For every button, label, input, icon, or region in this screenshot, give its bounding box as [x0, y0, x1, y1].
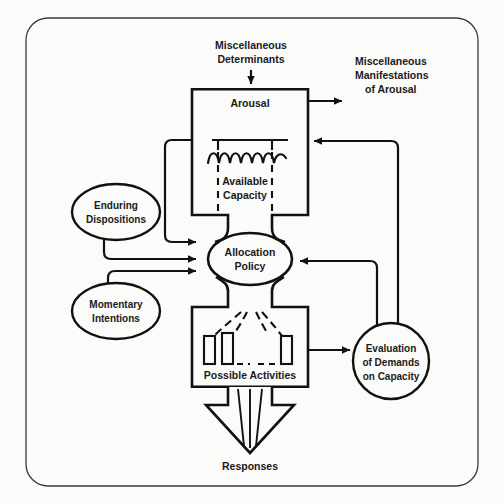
misc-determinants-label-line1: Miscellaneous — [215, 39, 287, 51]
edge-evaluation-to-allocation-policy-feedback — [300, 261, 377, 327]
allocation-policy-node — [208, 233, 292, 285]
evaluation-of-demands-label-line2: of Demands — [362, 357, 420, 368]
available-capacity-wave-icon — [208, 153, 286, 163]
arousal-funnel-outline — [192, 88, 308, 242]
arousal-label: Arousal — [230, 97, 269, 109]
available-capacity-label-line1: Available — [222, 175, 268, 187]
enduring-dispositions-node — [72, 184, 160, 240]
momentary-intentions-label-line2: Intentions — [92, 313, 140, 324]
activity-bar-2 — [222, 333, 233, 364]
diagram-canvas: Miscellaneous Determinants Arousal Misce… — [0, 0, 503, 503]
misc-manifestations-label-line2: Manifestations — [355, 69, 429, 81]
misc-manifestations-label-line3: of Arousal — [365, 83, 417, 95]
activity-tendril-right-outer — [262, 312, 282, 336]
momentary-intentions-label-line1: Momentary — [89, 299, 143, 310]
allocation-policy-label-line1: Allocation — [225, 246, 276, 258]
evaluation-of-demands-label-line1: Evaluation — [366, 343, 417, 354]
activity-bar-1 — [204, 336, 215, 364]
available-capacity-label-line2: Capacity — [223, 189, 267, 201]
activity-tendril-left-outer — [215, 312, 241, 335]
enduring-dispositions-label-line2: Dispositions — [86, 214, 146, 225]
capacity-model-diagram: Miscellaneous Determinants Arousal Misce… — [0, 0, 503, 503]
allocation-policy-label-line2: Policy — [235, 260, 266, 272]
momentary-intentions-node — [72, 283, 160, 339]
misc-manifestations-label-line1: Miscellaneous — [355, 55, 427, 67]
possible-activities-label: Possible Activities — [204, 369, 297, 381]
evaluation-of-demands-label-line3: on Capacity — [363, 371, 420, 382]
enduring-dispositions-label-line1: Enduring — [94, 200, 138, 211]
activity-bar-3 — [281, 336, 292, 364]
responses-label: Responses — [222, 460, 278, 472]
misc-determinants-label-line2: Determinants — [217, 53, 284, 65]
edge-evaluation-to-arousal-feedback — [314, 141, 398, 324]
